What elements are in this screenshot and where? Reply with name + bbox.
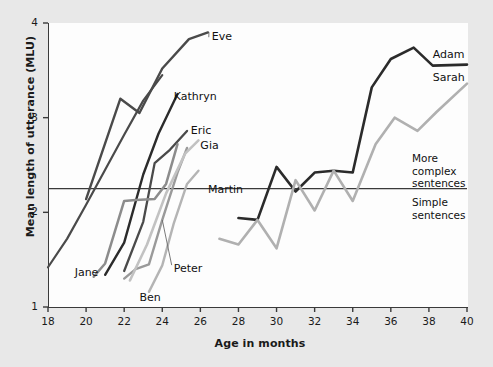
zone-simple-line1: Simple bbox=[412, 196, 466, 209]
x-tick-label-40: 40 bbox=[454, 315, 480, 327]
x-tick-label-38: 38 bbox=[416, 315, 442, 327]
y-tick-label-2: 2 bbox=[18, 205, 38, 217]
series-label-eric: Eric bbox=[191, 124, 212, 137]
zone-more-complex-line3: sentences bbox=[412, 177, 466, 190]
x-tick-label-36: 36 bbox=[378, 315, 404, 327]
x-tick-label-30: 30 bbox=[264, 315, 290, 327]
x-tick-label-26: 26 bbox=[187, 315, 213, 327]
series-label-kathryn: Kathryn bbox=[174, 90, 217, 103]
zone-label-simple: Simple sentences bbox=[412, 196, 466, 221]
zone-label-more-complex: More complex sentences bbox=[412, 152, 466, 190]
y-tick-label-1: 1 bbox=[18, 300, 38, 312]
zone-more-complex-line1: More bbox=[412, 152, 466, 165]
x-tick-label-32: 32 bbox=[302, 315, 328, 327]
chart-figure: Mean length of utterance (MLU) Age in mo… bbox=[0, 0, 493, 367]
series-label-gia: Gia bbox=[200, 139, 218, 152]
series-label-jane: Jane bbox=[75, 266, 99, 279]
x-axis-title: Age in months bbox=[180, 337, 340, 350]
series-label-ben: Ben bbox=[139, 291, 160, 304]
x-tick-label-18: 18 bbox=[35, 315, 61, 327]
series-label-martin: Martin bbox=[208, 183, 243, 196]
x-tick-label-24: 24 bbox=[149, 315, 175, 327]
series-label-adam: Adam bbox=[433, 48, 465, 61]
series-label-sarah: Sarah bbox=[433, 71, 465, 84]
series-lines-group bbox=[48, 32, 467, 291]
y-tick-label-4: 4 bbox=[18, 16, 38, 28]
series-label-peter: Peter bbox=[174, 262, 203, 275]
zone-more-complex-line2: complex bbox=[412, 165, 466, 178]
x-tick-label-28: 28 bbox=[225, 315, 251, 327]
x-tick-label-22: 22 bbox=[111, 315, 137, 327]
series-line-eve bbox=[86, 32, 208, 199]
series-label-eve: Eve bbox=[212, 30, 232, 43]
zone-simple-line2: sentences bbox=[412, 209, 466, 222]
y-tick-label-3: 3 bbox=[18, 111, 38, 123]
x-tick-label-20: 20 bbox=[73, 315, 99, 327]
x-tick-label-34: 34 bbox=[340, 315, 366, 327]
